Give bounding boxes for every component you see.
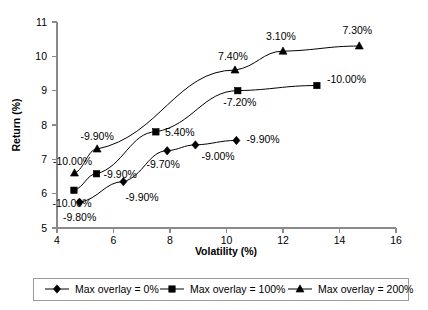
legend-label: Max overlay = 200%: [318, 283, 413, 295]
scatter-line-chart: Return (%) Volatility (%) 567891011 4681…: [0, 0, 428, 310]
marker-diamond: [164, 147, 171, 155]
marker-square: [169, 286, 175, 292]
marker-triangle: [71, 169, 79, 176]
marker-diamond: [192, 141, 199, 149]
point-label: -9.80%: [63, 211, 96, 223]
point-label: 7.30%: [342, 24, 372, 36]
x-tick-label: 6: [111, 234, 117, 246]
y-tick-label: 10: [35, 50, 47, 62]
point-label: -10.00%: [52, 197, 91, 209]
y-tick-label: 9: [41, 84, 47, 96]
point-label: -7.20%: [223, 96, 256, 108]
x-tick-label: 10: [221, 234, 233, 246]
x-tick-label: 16: [390, 234, 402, 246]
x-tick-label: 14: [334, 234, 346, 246]
legend-items: Max overlay = 0%Max overlay = 100%Max ov…: [45, 283, 413, 295]
point-label: 7.40%: [218, 50, 248, 62]
series-layer: [71, 42, 364, 207]
y-tick-label: 6: [41, 187, 47, 199]
point-label: -10.00%: [327, 73, 366, 85]
marker-square: [93, 171, 99, 177]
x-tick-label: 8: [167, 234, 173, 246]
marker-triangle: [355, 42, 363, 49]
legend-label: Max overlay = 0%: [75, 283, 159, 295]
x-axis-title: Volatility (%): [195, 245, 257, 257]
y-axis-title: Return (%): [10, 98, 22, 151]
y-tick-label: 7: [41, 153, 47, 165]
marker-square: [314, 82, 320, 88]
point-label: -9.90%: [80, 130, 113, 142]
x-tick-label: 12: [277, 234, 289, 246]
x-tick-label: 4: [54, 234, 60, 246]
legend-label: Max overlay = 100%: [190, 283, 285, 295]
x-axis-ticks: 46810121416: [54, 228, 402, 246]
point-label: 5.40%: [165, 126, 195, 138]
y-tick-label: 8: [41, 119, 47, 131]
marker-square: [153, 129, 159, 135]
marker-diamond: [233, 136, 240, 144]
y-tick-label: 11: [36, 16, 47, 28]
legend: Max overlay = 0%Max overlay = 100%Max ov…: [33, 278, 413, 300]
point-label: -9.90%: [125, 191, 158, 203]
y-tick-label: 5: [41, 222, 47, 234]
marker-square: [71, 187, 77, 193]
point-label: -10.00%: [53, 155, 92, 167]
point-label: 3.10%: [266, 30, 296, 42]
point-label: -9.90%: [246, 133, 279, 145]
chart-container: Return (%) Volatility (%) 567891011 4681…: [0, 0, 428, 310]
point-label: -9.00%: [201, 150, 234, 162]
point-labels-layer: -9.80%-9.90%-9.70%-9.00%-9.90%-10.00%-9.…: [52, 24, 372, 223]
point-label: -9.70%: [147, 158, 180, 170]
marker-triangle: [279, 47, 287, 54]
point-label: -9.90%: [104, 168, 137, 180]
marker-square: [235, 87, 241, 93]
